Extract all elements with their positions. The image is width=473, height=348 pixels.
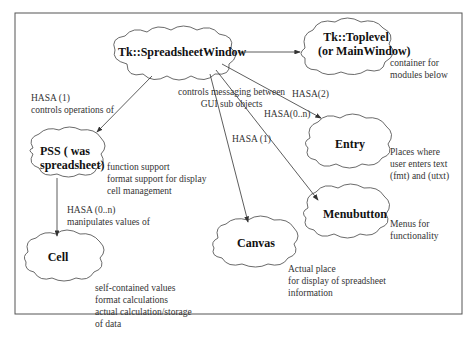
node-toplevel: Tk::Toplevel (or MainWindow) — [318, 30, 394, 58]
edge-label-to-menubutton: HASA(0..n) — [264, 108, 310, 120]
note-line: Menus for — [390, 218, 439, 230]
node-pss-line2: spreadsheet) — [40, 158, 104, 172]
edge-label-line: controls messaging between — [178, 86, 285, 98]
edge-label-line: controls operations of — [31, 104, 114, 116]
note-line: of data — [95, 318, 192, 330]
note-line: format calculations — [95, 294, 192, 306]
note-line: user enters text — [390, 158, 449, 170]
node-canvas: Canvas — [233, 236, 279, 250]
architecture-diagram: Tk::SpreadsheetWindow Tk::Toplevel (or M… — [0, 0, 473, 348]
edge-label-to-cell: HASA (0..n) manipulates values of — [67, 204, 150, 228]
edge-label-to-entry: HASA(2) — [292, 88, 329, 100]
note-line: cell management — [107, 185, 206, 197]
note-pss: function support format support for disp… — [107, 161, 206, 197]
note-canvas: Actual place for display of spreadsheet … — [288, 263, 386, 299]
node-toplevel-line2: (or MainWindow) — [318, 44, 394, 58]
note-cell: self-contained values format calculation… — [95, 282, 192, 330]
node-menubutton: Menubutton — [323, 207, 383, 221]
note-menubutton: Menus for functionality — [390, 218, 439, 242]
note-line: format support for display — [107, 173, 206, 185]
note-entry: Places where user enters text (fmt) and … — [390, 146, 449, 182]
note-line: function support — [107, 161, 206, 173]
node-spreadsheet-window: Tk::SpreadsheetWindow — [118, 45, 246, 59]
note-line: modules below — [390, 69, 448, 81]
edge-label-line: manipulates values of — [67, 216, 150, 228]
edge-label-line: HASA (0..n) — [67, 204, 150, 216]
note-line: Places where — [390, 146, 449, 158]
note-line: functionality — [390, 230, 439, 242]
edge-label-messaging: controls messaging between GUI sub objec… — [178, 86, 285, 110]
note-line: self-contained values — [95, 282, 192, 294]
node-pss-line1: PSS ( was — [40, 144, 104, 158]
note-toplevel: container for modules below — [390, 57, 448, 81]
note-line: Actual place — [288, 263, 386, 275]
note-line: (fmt) and (utxt) — [390, 170, 449, 182]
note-line: information — [288, 287, 386, 299]
node-toplevel-line1: Tk::Toplevel — [318, 30, 394, 44]
edge-label-line: HASA (1) — [31, 92, 114, 104]
node-pss: PSS ( was spreadsheet) — [40, 144, 104, 172]
note-line: actual calculation/storage — [95, 306, 192, 318]
node-cell: Cell — [45, 250, 71, 264]
edge-label-to-pss: HASA (1) controls operations of — [31, 92, 114, 116]
node-entry: Entry — [330, 137, 370, 151]
edge-label-to-canvas: HASA (1) — [232, 133, 271, 145]
note-line: container for — [390, 57, 448, 69]
note-line: for display of spreadsheet — [288, 275, 386, 287]
